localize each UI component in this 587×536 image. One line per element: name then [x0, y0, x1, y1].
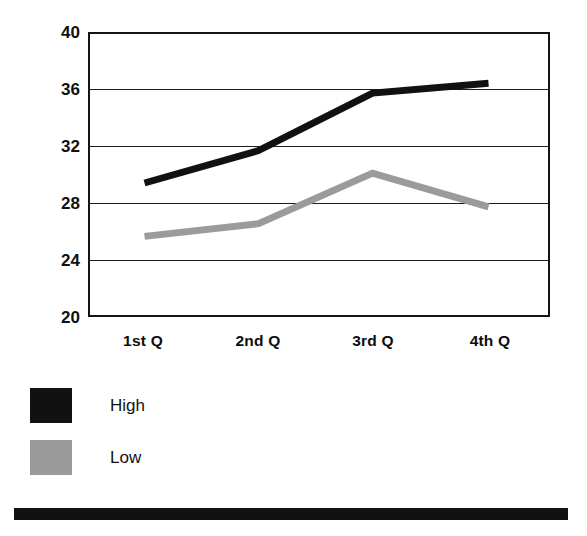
plot-area	[88, 32, 550, 317]
line-chart: 40 36 32 28 24 20 1st Q 2nd Q 3rd Q 4th …	[0, 0, 587, 536]
x-tick-label-q3: 3rd Q	[352, 332, 393, 350]
x-tick-label-q2: 2nd Q	[236, 332, 281, 350]
y-tick-label: 36	[34, 81, 80, 98]
legend-item-low: Low	[30, 440, 330, 475]
x-tick-label-q4: 4th Q	[470, 332, 511, 350]
chart-legend: High Low	[30, 388, 330, 492]
legend-label-high: High	[110, 396, 145, 416]
footer-bar	[14, 508, 568, 520]
series-layer	[90, 34, 548, 315]
legend-swatch-high	[30, 388, 72, 423]
x-axis-labels: 1st Q 2nd Q 3rd Q 4th Q	[88, 332, 550, 358]
series-line-high	[145, 83, 489, 183]
series-line-low	[145, 173, 489, 236]
y-tick-label: 24	[34, 252, 80, 269]
legend-item-high: High	[30, 388, 330, 423]
y-tick-label: 20	[34, 309, 80, 326]
y-tick-label: 40	[34, 24, 80, 41]
y-tick-label: 28	[34, 195, 80, 212]
x-tick-label-q1: 1st Q	[123, 332, 163, 350]
legend-label-low: Low	[110, 448, 141, 468]
y-tick-label: 32	[34, 138, 80, 155]
legend-swatch-low	[30, 440, 72, 475]
